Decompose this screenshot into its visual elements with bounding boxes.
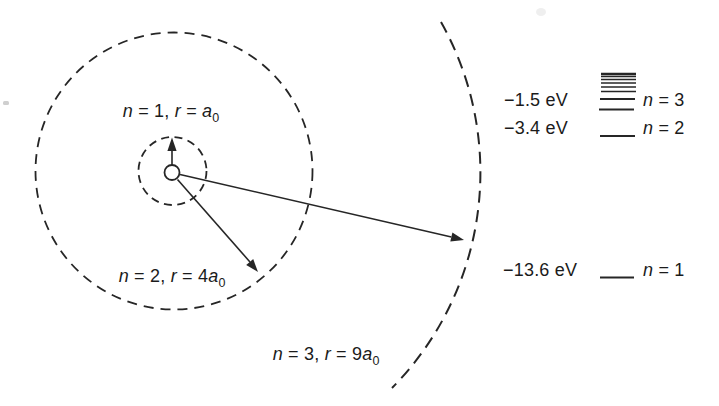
quantum-number-text: = 3: [653, 90, 684, 110]
var-n: n: [119, 266, 129, 286]
orbit-label-text: = 4: [177, 266, 208, 286]
energy-value-n2: −3.4 eV: [504, 117, 568, 139]
var-a: a: [362, 344, 372, 364]
scan-smudge: [536, 8, 546, 16]
orbit-label-text: =: [181, 101, 202, 121]
quantum-number-label-n3: n = 3: [643, 89, 685, 111]
var-n: n: [643, 260, 653, 280]
energy-value-n1: −13.6 eV: [503, 259, 577, 281]
level-lines-continuum: [601, 74, 636, 92]
orbit-label-n1: n = 1, r = a0: [123, 100, 219, 129]
var-n: n: [643, 118, 653, 138]
energy-value-n3: −1.5 eV: [504, 89, 568, 111]
subscript-zero: 0: [212, 111, 219, 125]
quantum-number-label-n2: n = 2: [643, 117, 685, 139]
quantum-number-text: = 1: [653, 260, 684, 280]
nucleus-circle: [165, 165, 180, 180]
orbit-label-text: = 1,: [133, 101, 175, 121]
orbit-label-text: = 3,: [283, 344, 325, 364]
quantum-number-label-n1: n = 1: [643, 259, 685, 281]
orbit-label-text: = 2,: [129, 266, 171, 286]
bohr-model-figure: n = 1, r = a0 n = 2, r = 4a0 n = 3, r = …: [0, 0, 719, 406]
orbit-label-n2: n = 2, r = 4a0: [119, 265, 226, 294]
radius-arrow-n2-shaft: [178, 180, 251, 263]
radius-arrow-n2-head: [246, 259, 258, 272]
scan-mark: [3, 101, 9, 105]
quantum-number-text: = 2: [653, 118, 684, 138]
orbit-label-n3: n = 3, r = 9a0: [273, 343, 380, 372]
var-a: a: [208, 266, 218, 286]
radius-arrow-n1-head: [167, 138, 176, 152]
orbit-arc-n3: [392, 22, 480, 388]
orbit-label-text: = 9: [331, 344, 362, 364]
radius-arrow-n3-head: [450, 233, 464, 242]
var-n: n: [123, 101, 133, 121]
var-n: n: [643, 90, 653, 110]
subscript-zero: 0: [372, 354, 379, 368]
var-a: a: [202, 101, 212, 121]
subscript-zero: 0: [218, 276, 225, 290]
var-n: n: [273, 344, 283, 364]
